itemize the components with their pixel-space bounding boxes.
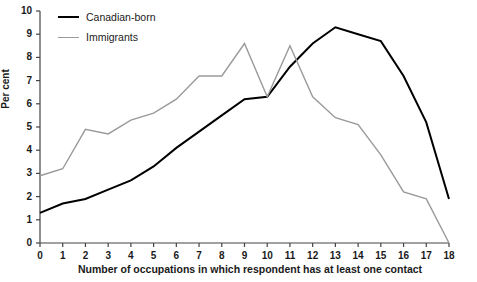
y-tick-0: 0 [0, 237, 32, 248]
y-tick-3: 3 [0, 167, 32, 178]
y-axis-title: Per cent [0, 54, 11, 124]
legend-item-immigrants: Immigrants [58, 31, 138, 43]
y-tick-9: 9 [0, 28, 32, 39]
y-tick-4: 4 [0, 144, 32, 155]
legend-item-canadian-born: Canadian-born [58, 11, 155, 23]
legend-label-canadian-born: Canadian-born [86, 11, 155, 23]
series-line-canadian-born [40, 27, 449, 213]
legend-swatch-immigrants [58, 37, 79, 38]
y-tick-2: 2 [0, 191, 32, 202]
chart-series [40, 27, 449, 243]
series-line-immigrants [40, 43, 449, 243]
x-axis-title: Number of occupations in which responden… [40, 263, 460, 275]
chart-container: 012345678910 012345678910111213141516171… [0, 0, 477, 282]
y-tick-10: 10 [0, 5, 32, 16]
y-tick-1: 1 [0, 214, 32, 225]
legend-label-immigrants: Immigrants [86, 31, 138, 43]
legend-swatch-canadian-born [58, 16, 79, 18]
x-tick-18: 18 [435, 250, 463, 261]
